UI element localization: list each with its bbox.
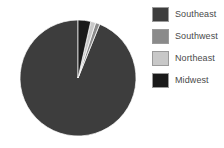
chart-legend: SoutheastSouthwestNortheastMidwest — [152, 6, 224, 110]
pie-slice-group — [20, 20, 136, 136]
legend-label-midwest: Midwest — [175, 75, 209, 85]
legend-item-southeast[interactable]: Southeast — [152, 6, 216, 22]
legend-swatch-northeast — [152, 51, 169, 66]
legend-label-southeast: Southeast — [175, 9, 216, 19]
legend-item-northeast[interactable]: Northeast — [152, 50, 215, 66]
legend-label-southwest: Southwest — [175, 31, 218, 41]
pie-svg — [0, 0, 150, 148]
legend-swatch-southeast — [152, 7, 169, 22]
legend-label-northeast: Northeast — [175, 53, 215, 63]
legend-swatch-midwest — [152, 73, 169, 88]
legend-item-southwest[interactable]: Southwest — [152, 28, 218, 44]
legend-swatch-southwest — [152, 29, 169, 44]
legend-item-midwest[interactable]: Midwest — [152, 72, 209, 88]
pie-chart-figure: SoutheastSouthwestNortheastMidwest — [0, 0, 224, 148]
pie-plot-area — [0, 0, 150, 148]
